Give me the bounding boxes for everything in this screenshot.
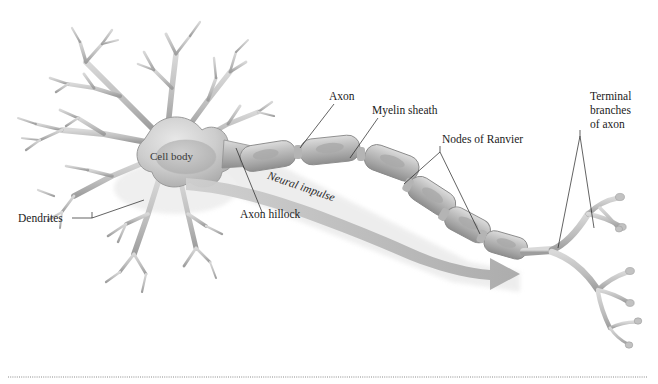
myelin-segment <box>238 139 297 173</box>
leader-dendrites-b <box>92 200 144 218</box>
myelin-segment <box>482 228 530 261</box>
label-terminal-branches: Terminal branches of axon <box>590 90 631 130</box>
label-nodes-of-ranvier: Nodes of Ranvier <box>442 133 523 145</box>
label-terminal-branches-line3: of axon <box>590 118 625 130</box>
label-dendrites: Dendrites <box>18 212 63 224</box>
myelin-segment <box>299 134 361 166</box>
leader-dendrites-a <box>72 212 92 218</box>
label-myelin-sheath: Myelin sheath <box>372 104 438 117</box>
node-of-ranvier <box>357 147 365 161</box>
label-axon-hillock: Axon hillock <box>240 208 301 220</box>
label-terminal-branches-line1: Terminal <box>590 90 631 102</box>
label-terminal-branches-line2: branches <box>590 104 631 116</box>
terminal-branches-structure <box>524 198 636 344</box>
neuron-illustration-canvas: Dendrites Cell body Axon hillock Axon My… <box>0 0 658 384</box>
label-cell-body: Cell body <box>150 150 194 162</box>
label-axon: Axon <box>329 90 355 102</box>
neuron-diagram-figure: Dendrites Cell body Axon hillock Axon My… <box>0 0 658 384</box>
